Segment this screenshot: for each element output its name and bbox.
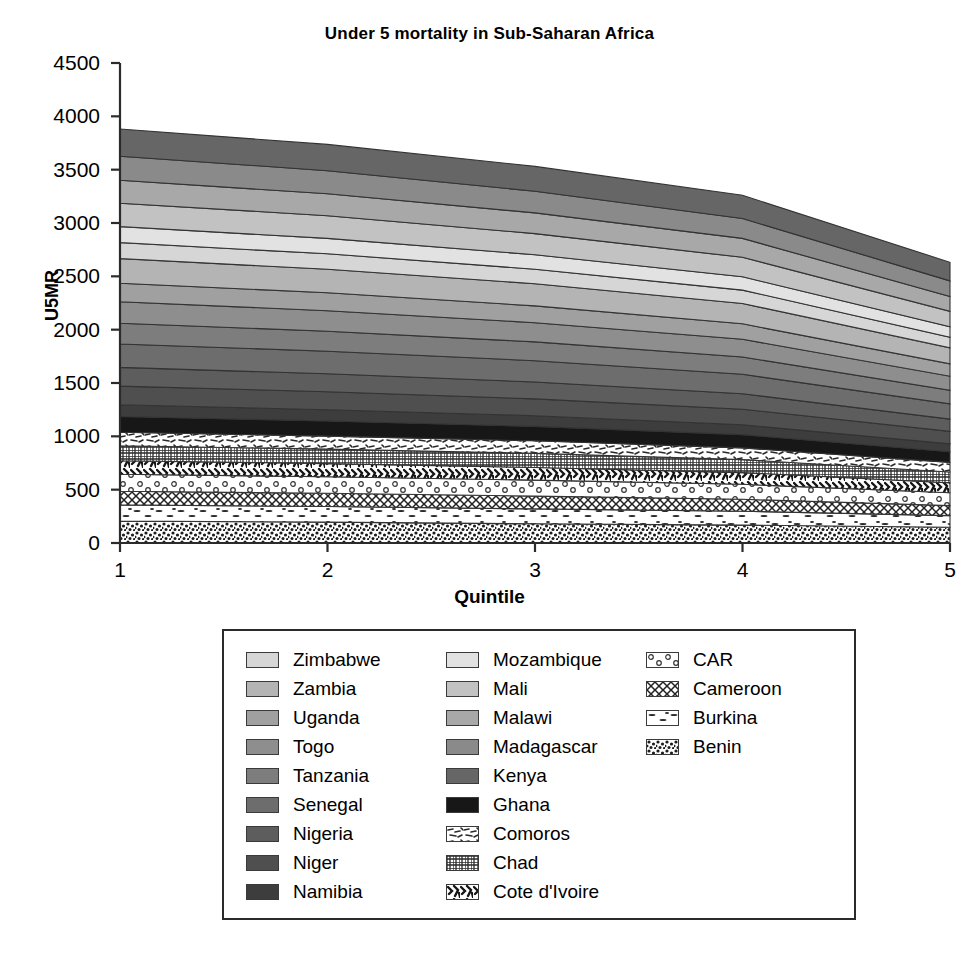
legend-swatch	[446, 768, 479, 784]
y-tick-label: 2000	[36, 319, 100, 340]
legend-swatch	[446, 652, 479, 668]
legend-label: Burkina	[693, 708, 757, 727]
legend-label: Niger	[293, 853, 338, 872]
legend-item[interactable]: Malawi	[446, 703, 646, 732]
legend-item[interactable]: Benin	[646, 732, 846, 761]
x-tick-label: 5	[930, 559, 970, 580]
legend-label: Zimbabwe	[293, 650, 381, 669]
legend: ZimbabweZambiaUgandaTogoTanzaniaSenegalN…	[222, 629, 856, 920]
legend-swatch	[446, 797, 479, 813]
legend-label: Kenya	[493, 766, 547, 785]
legend-swatch	[446, 681, 479, 697]
legend-label: Nigeria	[293, 824, 353, 843]
legend-label: Cameroon	[693, 679, 782, 698]
y-tick-label: 500	[36, 479, 100, 500]
legend-swatch	[646, 681, 679, 697]
legend-swatch	[246, 739, 279, 755]
y-tick-label: 4000	[36, 105, 100, 126]
legend-item[interactable]: Kenya	[446, 761, 646, 790]
legend-swatch	[646, 710, 679, 726]
legend-swatch	[246, 855, 279, 871]
figure: Under 5 mortality in Sub-Saharan Africa …	[0, 0, 979, 964]
x-tick-label: 1	[100, 559, 140, 580]
legend-item[interactable]: CAR	[646, 645, 846, 674]
legend-swatch	[446, 710, 479, 726]
legend-label: CAR	[693, 650, 733, 669]
legend-item[interactable]: Burkina	[646, 703, 846, 732]
legend-item[interactable]: Mali	[446, 674, 646, 703]
legend-item[interactable]: Cote d'Ivoire	[446, 877, 646, 906]
legend-item[interactable]: Senegal	[246, 790, 446, 819]
legend-label: Uganda	[293, 708, 360, 727]
legend-column: ZimbabweZambiaUgandaTogoTanzaniaSenegalN…	[246, 645, 446, 906]
legend-swatch	[246, 710, 279, 726]
stacked-area-plot	[0, 0, 979, 620]
legend-column: MozambiqueMaliMalawiMadagascarKenyaGhana…	[446, 645, 646, 906]
legend-swatch	[446, 855, 479, 871]
legend-item[interactable]: Cameroon	[646, 674, 846, 703]
legend-label: Cote d'Ivoire	[493, 882, 599, 901]
legend-label: Comoros	[493, 824, 570, 843]
y-tick-label: 2500	[36, 265, 100, 286]
legend-label: Ghana	[493, 795, 550, 814]
legend-label: Zambia	[293, 679, 356, 698]
legend-label: Namibia	[293, 882, 363, 901]
legend-item[interactable]: Mozambique	[446, 645, 646, 674]
legend-item[interactable]: Madagascar	[446, 732, 646, 761]
y-tick-label: 3000	[36, 212, 100, 233]
legend-label: Chad	[493, 853, 538, 872]
x-tick-label: 4	[723, 559, 763, 580]
legend-item[interactable]: Tanzania	[246, 761, 446, 790]
legend-item[interactable]: Zimbabwe	[246, 645, 446, 674]
legend-item[interactable]: Chad	[446, 848, 646, 877]
legend-swatch	[246, 797, 279, 813]
legend-swatch	[246, 652, 279, 668]
legend-swatch	[646, 739, 679, 755]
legend-swatch	[446, 739, 479, 755]
x-tick-label: 2	[308, 559, 348, 580]
legend-item[interactable]: Namibia	[246, 877, 446, 906]
legend-label: Tanzania	[293, 766, 369, 785]
legend-item[interactable]: Zambia	[246, 674, 446, 703]
legend-label: Mozambique	[493, 650, 602, 669]
legend-item[interactable]: Niger	[246, 848, 446, 877]
y-tick-label: 4500	[36, 52, 100, 73]
legend-label: Madagascar	[493, 737, 598, 756]
legend-swatch	[246, 826, 279, 842]
y-tick-label: 0	[36, 532, 100, 553]
legend-swatch	[246, 884, 279, 900]
legend-item[interactable]: Uganda	[246, 703, 446, 732]
legend-swatch	[446, 884, 479, 900]
legend-swatch	[646, 652, 679, 668]
legend-item[interactable]: Comoros	[446, 819, 646, 848]
legend-label: Senegal	[293, 795, 363, 814]
y-tick-label: 1500	[36, 372, 100, 393]
legend-label: Benin	[693, 737, 742, 756]
legend-column: CARCameroonBurkinaBenin	[646, 645, 846, 906]
legend-item[interactable]: Nigeria	[246, 819, 446, 848]
x-tick-label: 3	[515, 559, 555, 580]
legend-swatch	[446, 826, 479, 842]
legend-swatch	[246, 681, 279, 697]
legend-item[interactable]: Ghana	[446, 790, 646, 819]
y-tick-label: 1000	[36, 425, 100, 446]
legend-swatch	[246, 768, 279, 784]
legend-label: Mali	[493, 679, 528, 698]
legend-item[interactable]: Togo	[246, 732, 446, 761]
legend-label: Togo	[293, 737, 334, 756]
y-tick-label: 3500	[36, 159, 100, 180]
legend-label: Malawi	[493, 708, 552, 727]
